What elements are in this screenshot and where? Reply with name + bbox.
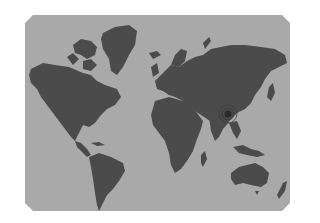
world-map-graphic: [25, 15, 290, 211]
location-marker[interactable]: [219, 105, 237, 123]
world-map: [25, 15, 290, 211]
